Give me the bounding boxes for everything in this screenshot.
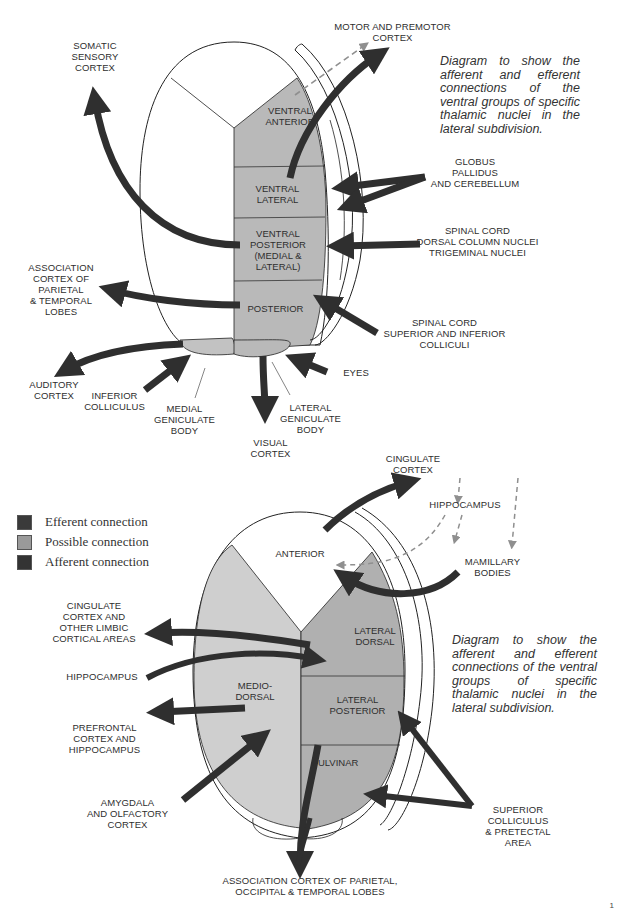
nucleus-anterior: ANTERIOR <box>265 548 335 559</box>
efferent-swatch-icon <box>17 515 32 530</box>
legend-item-possible: Possible connection <box>17 532 149 552</box>
label-prefrontal: PREFRONTAL CORTEX AND HIPPOCAMPUS <box>67 722 142 755</box>
nucleus-medio-dorsal: MEDIO- DORSAL <box>225 680 285 702</box>
bottom-caption: Diagram to show the afferent and efferen… <box>452 634 597 715</box>
label-hippocampus-left: HIPPOCAMPUS <box>62 671 142 682</box>
nucleus-lateral-dorsal: LATERAL DORSAL <box>345 625 405 647</box>
label-lateral-geniculate: LATERAL GENICULATE BODY <box>278 402 343 435</box>
legend-item-efferent: Efferent connection <box>17 512 149 532</box>
nucleus-lateral-posterior: LATERAL POSTERIOR <box>320 694 395 716</box>
label-motor-premotor-cortex: MOTOR AND PREMOTOR CORTEX <box>330 21 455 43</box>
label-visual-cortex: VISUAL CORTEX <box>248 437 293 459</box>
legend: Efferent connection Possible connection … <box>17 512 149 572</box>
top-thalamus <box>66 42 425 410</box>
nucleus-pulvinar: PULVINAR <box>300 757 370 768</box>
label-superior-colliculus-pretectal: SUPERIOR COLLICULUS & PRETECTAL AREA <box>478 804 558 848</box>
label-association-parietal-occipital-temporal: ASSOCIATION CORTEX OF PARIETAL, OCCIPITA… <box>210 875 410 897</box>
label-globus-pallidus: GLOBUS PALLIDUS AND CEREBELLUM <box>425 156 525 189</box>
label-auditory-cortex: AUDITORY CORTEX <box>25 379 83 401</box>
label-amygdala-olfactory: AMYGDALA AND OLFACTORY CORTEX <box>85 797 170 830</box>
nucleus-ventral-posterior: VENTRAL POSTERIOR (MEDIAL & LATERAL) <box>238 228 318 272</box>
label-spinal-cord-colliculi: SPINAL CORD SUPERIOR AND INFERIOR COLLIC… <box>382 317 507 350</box>
label-cingulate-limbic: CINGULATE CORTEX AND OTHER LIMBIC CORTIC… <box>50 600 138 644</box>
label-eyes: EYES <box>336 367 376 378</box>
label-spinal-cord-dorsal: SPINAL CORD DORSAL COLUMN NUCLEI TRIGEMI… <box>415 225 540 258</box>
top-caption: Diagram to show the afferent and efferen… <box>440 55 580 136</box>
afferent-swatch-icon <box>17 555 32 570</box>
label-hippocampus-top: HIPPOCAMPUS <box>425 499 505 510</box>
legend-label: Afferent connection <box>45 554 149 570</box>
label-mamillary-bodies: MAMILLARY BODIES <box>455 556 530 578</box>
label-cingulate-cortex: CINGULATE CORTEX <box>378 453 448 475</box>
label-medial-geniculate: MEDIAL GENICULATE BODY <box>152 403 217 436</box>
thalamus-diagrams-artwork <box>0 0 618 912</box>
nucleus-posterior: POSTERIOR <box>238 303 313 314</box>
label-inferior-colliculus: INFERIOR COLLICULUS <box>82 390 147 412</box>
label-somatic-sensory-cortex: SOMATIC SENSORY CORTEX <box>65 40 125 73</box>
nucleus-ventral-lateral: VENTRAL LATERAL <box>240 183 315 205</box>
nucleus-ventral-anterior: VENTRAL ANTERIOR <box>250 105 330 127</box>
legend-label: Possible connection <box>45 534 149 550</box>
legend-label: Efferent connection <box>45 514 148 530</box>
legend-item-afferent: Afferent connection <box>17 552 149 572</box>
label-association-parietal-temporal: ASSOCIATION CORTEX OF PARIETAL & TEMPORA… <box>25 262 97 317</box>
possible-swatch-icon <box>17 535 32 550</box>
page-number: 1 <box>610 901 614 910</box>
